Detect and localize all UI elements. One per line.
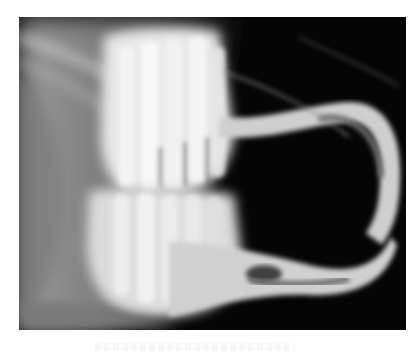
xray-drawing: [19, 17, 406, 330]
bleed-through-caption: [95, 343, 295, 351]
xray-image: [19, 17, 406, 330]
